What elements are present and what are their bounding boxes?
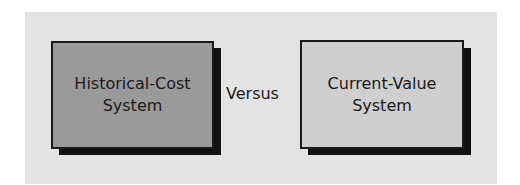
current-value-label: Current-Value [328, 73, 437, 95]
current-system-label: System [352, 95, 412, 117]
historical-cost-system-box: Historical-Cost System [51, 41, 214, 149]
historical-system-label: System [103, 95, 163, 117]
historical-cost-label: Historical-Cost [74, 73, 190, 95]
current-value-system-box: Current-Value System [300, 40, 464, 149]
versus-label: Versus [226, 84, 279, 103]
